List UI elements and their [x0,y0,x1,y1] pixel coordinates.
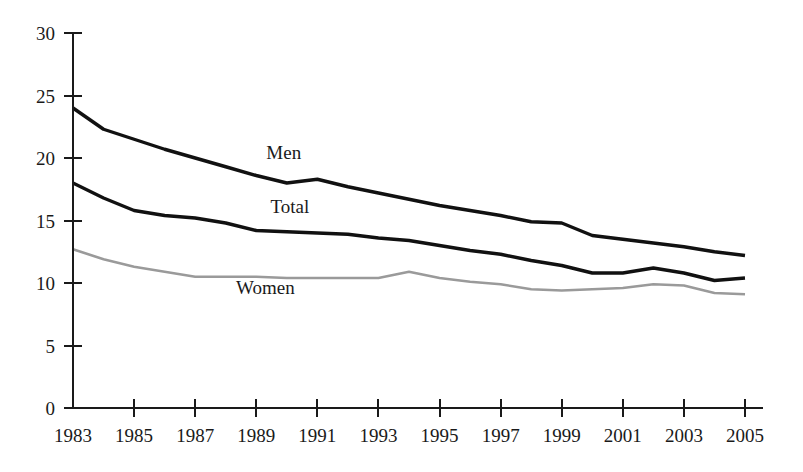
y-tick-label: 30 [36,23,55,44]
y-tick-label: 0 [46,398,56,419]
y-tick-label: 5 [46,336,56,357]
x-tick-label: 1995 [421,425,459,446]
y-tick-label: 15 [36,211,55,232]
y-axis-tick-labels: 051015202530 [36,23,55,419]
x-tick-label: 1993 [359,425,397,446]
x-tick-label: 2003 [665,425,703,446]
series-label-women: Women [236,277,295,298]
x-tick-label: 1983 [54,425,92,446]
series-label-total: Total [270,196,309,217]
series-label-men: Men [266,142,301,163]
y-tick-label: 10 [36,273,55,294]
x-tick-label: 1999 [543,425,581,446]
y-tick-label: 20 [36,148,55,169]
x-tick-label: 1997 [482,425,520,446]
x-tick-label: 1991 [298,425,336,446]
chart-page: 051015202530 198319851987198919911993199… [0,0,803,472]
line-chart: 051015202530 198319851987198919911993199… [0,0,803,472]
x-axis-tick-labels: 1983198519871989199119931995199719992001… [54,425,764,446]
series-layer [73,108,745,294]
axis-layer [64,33,763,417]
x-tick-label: 2001 [604,425,642,446]
y-tick-label: 25 [36,86,55,107]
series-inline-labels: MenTotalWomen [236,142,309,298]
x-tick-label: 1985 [115,425,153,446]
x-tick-label: 1987 [176,425,214,446]
series-line-women [73,249,745,294]
x-tick-label: 1989 [237,425,275,446]
x-tick-label: 2005 [726,425,764,446]
series-line-men [73,108,745,256]
